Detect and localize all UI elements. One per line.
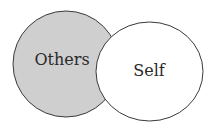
self-label: Self (133, 61, 166, 80)
venn-diagram: Others Self (0, 0, 214, 127)
others-label: Others (34, 50, 89, 69)
